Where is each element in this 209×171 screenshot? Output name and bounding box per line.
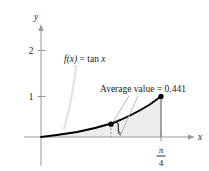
average-value-point: [108, 122, 113, 127]
function-label: f(x) = tan x: [64, 54, 106, 65]
shaded-area-under-curve: [41, 96, 161, 137]
y-axis-label: y: [33, 12, 39, 22]
x-axis-arrowhead: [188, 134, 195, 139]
function-label-arg: (x): [67, 54, 78, 65]
x-tick-label-pi-numerator: π: [159, 145, 164, 155]
function-label-leader-line: [64, 65, 76, 129]
figure-container: y x 2 1 π 4 f(x) = tan x Average value =…: [0, 0, 209, 171]
x-tick-label-pi-denominator: 4: [159, 158, 164, 168]
y-axis-arrowhead: [38, 24, 43, 31]
tangent-average-value-chart: y x 2 1 π 4 f(x) = tan x Average value =…: [0, 0, 209, 171]
x-axis-label: x: [197, 132, 203, 142]
y-tick-label-1: 1: [29, 92, 34, 102]
function-label-var: x: [100, 54, 106, 64]
average-value-annotation: Average value = 0.441: [100, 84, 186, 94]
curve-endpoint-point: [158, 94, 163, 99]
function-label-eq-tan: = tan: [77, 54, 101, 64]
y-tick-label-2: 2: [29, 46, 34, 56]
